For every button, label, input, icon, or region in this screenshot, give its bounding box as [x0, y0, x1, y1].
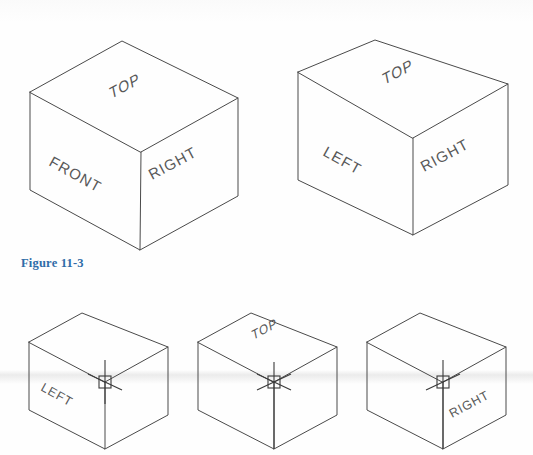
cube-isoplane-left: LEFT — [29, 313, 168, 449]
figure-caption: Figure 11-3 — [21, 256, 84, 271]
cube-isoplane-top: TOP — [198, 313, 337, 449]
figure-page: TOP FRONT RIGHT TOP LEFT RIGHT LEFT — [0, 0, 533, 455]
cube-left-right: TOP LEFT RIGHT — [298, 40, 508, 235]
isometric-cube-illustration: TOP FRONT RIGHT TOP LEFT RIGHT LEFT — [0, 0, 533, 455]
cube-isoplane-right: RIGHT — [367, 313, 506, 449]
cube-front-right: TOP FRONT RIGHT — [30, 41, 238, 250]
